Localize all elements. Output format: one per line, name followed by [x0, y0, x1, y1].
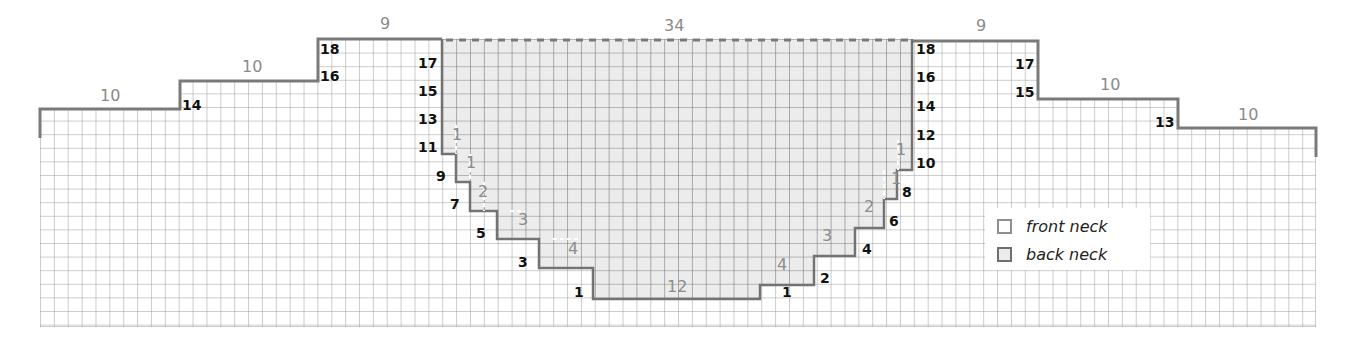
legend-label: front neck	[1026, 217, 1108, 236]
row-label: 4	[862, 241, 872, 257]
legend: front neck back neck	[985, 208, 1150, 270]
front-step-count: 3	[518, 210, 528, 229]
row-label: 13	[1155, 114, 1174, 130]
legend-item-front-neck: front neck	[997, 214, 1108, 238]
row-label: 13	[418, 111, 437, 127]
row-label: 16	[916, 69, 935, 85]
row-label: 5	[476, 225, 486, 241]
row-label: 15	[418, 83, 437, 99]
front-step-count: 4	[568, 239, 578, 258]
row-label: 10	[916, 155, 936, 171]
count-left-inner: 9	[380, 14, 390, 33]
row-label: 6	[889, 213, 899, 229]
row-label: 7	[450, 196, 460, 212]
row-label: 18	[916, 41, 935, 57]
front-neck-bottom-count: 12	[667, 277, 687, 296]
front-step-count: 1	[896, 140, 906, 159]
front-step-count: 1	[452, 125, 462, 144]
row-label: 12	[916, 127, 935, 143]
row-label: 2	[820, 270, 830, 286]
row-label: 9	[436, 168, 446, 184]
front-step-count: 1	[891, 169, 901, 188]
count-left-middle: 10	[242, 57, 262, 76]
row-label: 15	[1015, 84, 1034, 100]
row-label: 14	[916, 98, 936, 114]
count-left-outer: 10	[100, 86, 120, 105]
front-step-count: 2	[478, 182, 488, 201]
count-right-inner: 9	[976, 16, 986, 35]
front-neck-swatch-icon	[997, 219, 1012, 234]
row-label: 17	[1015, 56, 1034, 72]
row-label: 16	[320, 68, 339, 84]
row-label: 11	[418, 139, 437, 155]
front-step-count: 4	[777, 255, 787, 274]
row-label: 17	[418, 55, 437, 71]
front-step-count: 3	[822, 226, 832, 245]
front-step-count: 1	[466, 153, 476, 172]
row-label: 3	[518, 254, 528, 270]
front-step-count: 2	[864, 197, 874, 216]
count-right-middle: 10	[1100, 75, 1120, 94]
row-label: 1	[782, 284, 792, 300]
row-label: 1	[574, 284, 584, 300]
neck-shaping-chart: 10 10 9 34 9 10 10 18 16 14 17 15 13 11 …	[0, 0, 1359, 346]
legend-item-back-neck: back neck	[997, 242, 1107, 266]
row-label: 8	[902, 184, 912, 200]
count-back-neck: 34	[664, 16, 684, 35]
count-right-outer: 10	[1238, 105, 1258, 124]
row-label: 14	[182, 97, 202, 113]
legend-label: back neck	[1026, 245, 1107, 264]
row-label: 18	[320, 41, 339, 57]
back-neck-swatch-icon	[997, 247, 1012, 262]
